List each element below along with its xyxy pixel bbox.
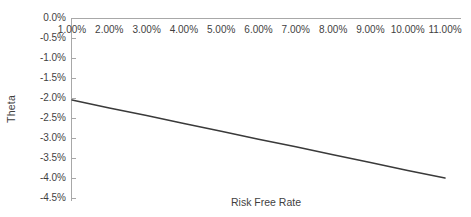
chart-container: Theta 0.0%-0.5%-1.0%-1.5%-2.0%-2.5%-3.0%… xyxy=(0,0,471,217)
data-series-layer xyxy=(0,0,471,217)
x-axis-title: Risk Free Rate xyxy=(71,196,461,208)
series-line-theta xyxy=(72,100,445,178)
